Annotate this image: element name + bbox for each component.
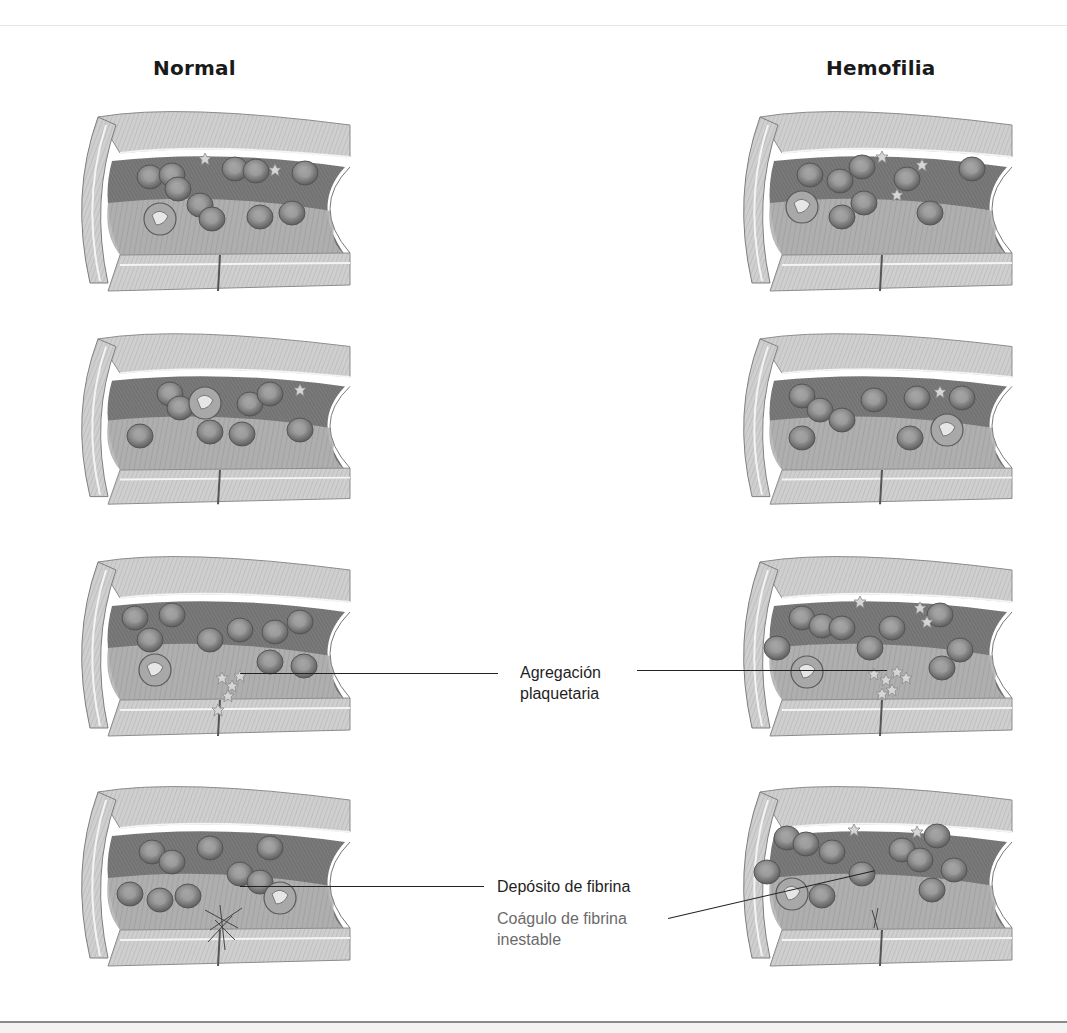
top-divider	[0, 25, 1067, 26]
column-title-hemofilia: Hemofilia	[826, 56, 935, 80]
vessel-panel-hemofilia-2	[722, 318, 1022, 518]
callout-unstable-fibrin-clot: Coágulo de fibrina inestable	[497, 908, 627, 950]
callout-line: inestable	[497, 929, 627, 950]
vessel-panel-hemofilia-3	[722, 540, 1022, 740]
callout-line: Agregación	[520, 662, 601, 683]
callout-line: Coágulo de fibrina	[497, 908, 627, 929]
leader-line-fibrin-deposit	[240, 886, 484, 887]
vessel-panel-normal-4	[60, 770, 360, 970]
callout-line: Depósito de fibrina	[497, 876, 630, 897]
callout-fibrin-deposit: Depósito de fibrina	[497, 876, 630, 897]
vessel-panel-hemofilia-1	[722, 95, 1022, 295]
leader-line-aggregation-right	[637, 670, 887, 671]
vessel-panel-normal-1	[60, 95, 360, 295]
vessel-panel-normal-3	[60, 540, 360, 740]
callout-line: plaquetaria	[520, 683, 601, 704]
leader-line-aggregation-left	[240, 673, 498, 674]
vessel-panel-normal-2	[60, 318, 360, 518]
callout-platelet-aggregation: Agregación plaquetaria	[520, 662, 601, 704]
column-title-normal: Normal	[153, 56, 236, 80]
bottom-band	[0, 1023, 1067, 1033]
